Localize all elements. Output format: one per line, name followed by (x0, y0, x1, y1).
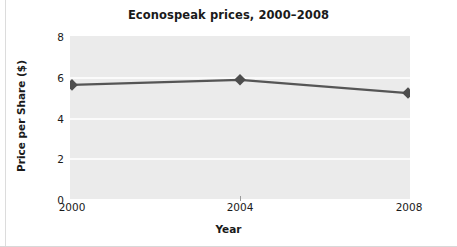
x-tick-2000: 2000 (42, 202, 102, 213)
y-axis-title: Price per Share ($) (15, 56, 27, 176)
y-tick-2: 2 (42, 154, 64, 165)
y-tick-8: 8 (42, 32, 64, 43)
page-edge-rule-left (5, 0, 6, 247)
chart-title: Econospeak prices, 2000–2008 (0, 8, 457, 22)
data-point-2004[interactable] (234, 74, 246, 86)
data-point-2000[interactable] (70, 79, 78, 91)
chart-figure: Econospeak prices, 2000–2008 8 6 4 2 0 2… (0, 0, 457, 247)
x-axis-title: Year (0, 223, 457, 235)
y-tick-4: 4 (42, 114, 64, 125)
x-tick-2004: 2004 (210, 202, 270, 213)
data-point-2008[interactable] (402, 87, 410, 99)
y-tick-6: 6 (42, 73, 64, 84)
series-layer (70, 36, 410, 199)
x-tick-2008: 2008 (379, 202, 439, 213)
